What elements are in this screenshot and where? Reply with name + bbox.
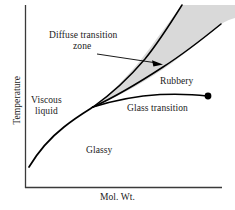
glass-transition-label: Glass transition: [127, 103, 188, 114]
diffuse-transition-zone-label: Diffuse transitionzone: [49, 30, 117, 51]
glassy-region-label: Glassy: [86, 145, 112, 156]
viscous-liquid-label-line2: liquid: [31, 106, 62, 117]
glass-transition-endpoint-dot: [205, 93, 212, 100]
diffuse-zone-label-line1: Diffuse transition: [49, 30, 117, 40]
y-axis-label: Temperature: [12, 50, 23, 150]
viscous-liquid-label: Viscousliquid: [31, 95, 62, 116]
x-axis-label: Mol. Wt.: [0, 192, 235, 203]
viscous-liquid-label-line1: Viscous: [31, 95, 62, 105]
rubbery-region-label: Rubbery: [160, 76, 193, 87]
diffuse-zone-label-line2: zone: [49, 41, 117, 52]
phase-diagram-figure: Diffuse transitionzone Viscousliquid Rub…: [0, 0, 235, 210]
diffuse-transition-zone-shading: [93, 5, 235, 107]
